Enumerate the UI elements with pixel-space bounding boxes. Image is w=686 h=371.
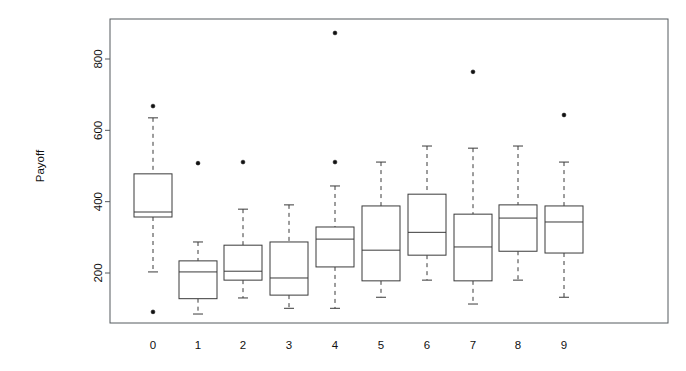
box-series <box>134 31 583 314</box>
y-axis-title-group: Payoff <box>34 149 46 182</box>
box <box>499 205 537 251</box>
box <box>545 206 583 253</box>
boxplot-group <box>499 146 537 280</box>
box <box>224 245 262 280</box>
outlier-point <box>471 70 475 74</box>
box <box>362 206 400 281</box>
y-tick-label: 800 <box>92 49 104 68</box>
x-tick-label: 1 <box>195 339 201 351</box>
boxplot-group <box>179 161 217 314</box>
y-tick-label: 200 <box>92 263 104 282</box>
box <box>179 261 217 299</box>
box <box>270 242 308 295</box>
outlier-point <box>151 310 155 314</box>
boxplot-group <box>134 104 172 314</box>
boxplot-group <box>316 31 354 308</box>
x-tick-label: 3 <box>286 339 292 351</box>
boxplot-group <box>408 146 446 280</box>
outlier-point <box>333 160 337 164</box>
x-tick-label: 8 <box>515 339 521 351</box>
y-tick-label: 600 <box>92 121 104 140</box>
boxplot-group <box>270 205 308 308</box>
x-tick-label: 2 <box>240 339 246 351</box>
x-tick-label: 5 <box>378 339 384 351</box>
box <box>454 214 492 281</box>
x-tick-label: 0 <box>150 339 156 351</box>
y-axis-title: Payoff <box>34 149 46 182</box>
outlier-point <box>241 160 245 164</box>
boxplot-group <box>454 70 492 304</box>
boxplot-chart: 200400600800 0123456789 Payoff <box>0 0 686 371</box>
box <box>408 194 446 255</box>
x-tick-label: 6 <box>424 339 430 351</box>
chart-canvas: 200400600800 0123456789 Payoff <box>0 0 686 371</box>
y-axis-ticks <box>105 59 110 273</box>
y-axis-tick-labels: 200400600800 <box>92 49 104 282</box>
boxplot-group <box>545 113 583 297</box>
boxplot-group <box>224 160 262 298</box>
outlier-point <box>333 31 337 35</box>
outlier-point <box>196 161 200 165</box>
x-tick-label: 7 <box>470 339 476 351</box>
outlier-point <box>151 104 155 108</box>
y-tick-label: 400 <box>92 192 104 211</box>
x-axis-tick-labels: 0123456789 <box>150 339 567 351</box>
x-tick-label: 4 <box>332 339 339 351</box>
x-tick-label: 9 <box>561 339 567 351</box>
box <box>316 227 354 267</box>
boxplot-group <box>362 162 400 297</box>
outlier-point <box>562 113 566 117</box>
box <box>134 174 172 217</box>
